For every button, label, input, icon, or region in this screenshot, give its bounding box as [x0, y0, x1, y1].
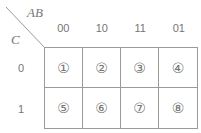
- kmap-cell-r0c1: ②: [83, 48, 121, 88]
- row-headers: 0 1: [10, 47, 32, 129]
- c-axis-label: C: [11, 33, 20, 46]
- column-header-11: 11: [121, 22, 160, 35]
- column-header-00: 00: [44, 22, 83, 35]
- kmap-cell-r1c0: ⑤: [45, 88, 83, 128]
- row-header-1: 1: [10, 88, 32, 129]
- kmap-cell-r1c2: ⑦: [121, 88, 159, 128]
- karnaugh-map-diagram: AB C 00 10 11 01 0 1 ① ② ③ ④ ⑤ ⑥ ⑦ ⑧: [0, 0, 201, 133]
- column-headers: 00 10 11 01: [44, 22, 198, 35]
- kmap-cell-r1c3: ⑧: [159, 88, 197, 128]
- kmap-grid: ① ② ③ ④ ⑤ ⑥ ⑦ ⑧: [44, 47, 198, 129]
- column-header-10: 10: [83, 22, 122, 35]
- kmap-cell-r1c1: ⑥: [83, 88, 121, 128]
- kmap-cell-r0c0: ①: [45, 48, 83, 88]
- kmap-cell-r0c3: ④: [159, 48, 197, 88]
- ab-axis-label: AB: [27, 6, 43, 19]
- row-header-0: 0: [10, 47, 32, 88]
- column-header-01: 01: [160, 22, 199, 35]
- kmap-cell-r0c2: ③: [121, 48, 159, 88]
